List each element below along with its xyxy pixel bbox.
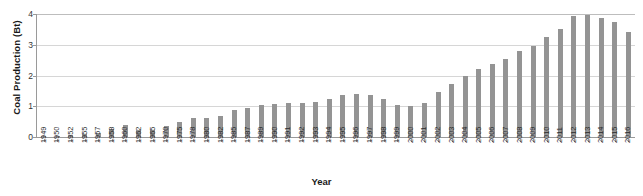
x-tick-slot: 1949 — [37, 139, 51, 175]
bar — [626, 32, 631, 137]
x-tick-slot: 2013 — [581, 139, 595, 175]
x-tick-slot: 1955 — [78, 139, 92, 175]
bar-slot — [486, 14, 500, 137]
x-tick-slot: 1957 — [91, 139, 105, 175]
x-tick-slot: 1978 — [187, 139, 201, 175]
x-tick-slot: 1995 — [336, 139, 350, 175]
bar-slot — [594, 14, 608, 137]
x-tick-label: 1989 — [256, 127, 265, 143]
x-tick-label: 2008 — [514, 127, 523, 143]
bar-slot — [268, 14, 282, 137]
x-tick-slot: 1960 — [119, 139, 133, 175]
bar-slot — [200, 14, 214, 137]
x-tick-slot: 2004 — [458, 139, 472, 175]
x-tick-label: 1962 — [134, 127, 143, 143]
y-tick-label: 3 — [21, 40, 33, 50]
x-tick-slot: 2000 — [404, 139, 418, 175]
x-tick-slot: 1999 — [390, 139, 404, 175]
x-tick-label: 1960 — [120, 127, 129, 143]
y-tick-label: 1 — [21, 101, 33, 111]
x-tick-slot: 1962 — [132, 139, 146, 175]
x-tick-slot: 2003 — [445, 139, 459, 175]
bar-slot — [513, 14, 527, 137]
bar-slot — [282, 14, 296, 137]
bar-slot — [363, 14, 377, 137]
x-tick-label: 1999 — [392, 127, 401, 143]
bar-slot — [431, 14, 445, 137]
x-tick-label: 2006 — [487, 127, 496, 143]
x-tick-slot: 1998 — [377, 139, 391, 175]
x-tick-slot: 1965 — [146, 139, 160, 175]
x-tick-slot: 2002 — [431, 139, 445, 175]
bar-slot — [241, 14, 255, 137]
x-tick-slot: 1993 — [309, 139, 323, 175]
bar-slot — [64, 14, 78, 137]
bar-slot — [105, 14, 119, 137]
x-tick-label: 1996 — [351, 127, 360, 143]
bar-slot — [499, 14, 513, 137]
x-tick-label: 1993 — [310, 127, 319, 143]
bar-slot — [540, 14, 554, 137]
y-axis-title: Coal Production (Bt) — [11, 8, 22, 128]
x-tick-label: 2011 — [555, 127, 564, 143]
x-tick-label: 1978 — [188, 127, 197, 143]
bar-slot — [78, 14, 92, 137]
bar-slot — [91, 14, 105, 137]
x-tick-label: 1975 — [175, 127, 184, 143]
bar — [503, 59, 508, 137]
bar — [517, 51, 522, 137]
bar-slot — [404, 14, 418, 137]
x-tick-label: 2001 — [419, 127, 428, 143]
bar — [585, 15, 590, 137]
bar-series — [37, 14, 635, 137]
x-tick-slot: 1991 — [282, 139, 296, 175]
bar-slot — [214, 14, 228, 137]
x-tick-label: 2000 — [406, 127, 415, 143]
x-tick-slot: 1990 — [268, 139, 282, 175]
bar-slot — [187, 14, 201, 137]
bar-slot — [336, 14, 350, 137]
x-tick-slot: 2005 — [472, 139, 486, 175]
x-tick-slot: 2007 — [499, 139, 513, 175]
x-tick-label: 1991 — [283, 127, 292, 143]
y-tick-label: 2 — [21, 71, 33, 81]
bar-slot — [309, 14, 323, 137]
coal-production-bar-chart: Coal Production (Bt) 01234 1949195019521… — [0, 0, 643, 196]
x-tick-label: 2012 — [569, 127, 578, 143]
x-tick-label: 2010 — [542, 127, 551, 143]
x-tick-slot: 1994 — [322, 139, 336, 175]
y-tick-label: 0 — [21, 132, 33, 142]
x-tick-slot: 1980 — [200, 139, 214, 175]
bar-slot — [526, 14, 540, 137]
x-tick-slot: 1992 — [295, 139, 309, 175]
x-tick-slot: 1982 — [214, 139, 228, 175]
x-tick-slot: 2001 — [418, 139, 432, 175]
bar-slot — [159, 14, 173, 137]
x-tick-label: 2009 — [528, 127, 537, 143]
bar-slot — [227, 14, 241, 137]
x-tick-label: 1990 — [270, 127, 279, 143]
bar-slot — [350, 14, 364, 137]
x-tick-label: 1949 — [39, 127, 48, 143]
x-tick-label: 1995 — [338, 127, 347, 143]
bar-slot — [390, 14, 404, 137]
x-tick-label: 1952 — [66, 127, 75, 143]
x-tick-label: 1970 — [161, 127, 170, 143]
x-tick-slot: 2011 — [554, 139, 568, 175]
x-tick-label: 1992 — [297, 127, 306, 143]
bar-slot — [173, 14, 187, 137]
bar-slot — [608, 14, 622, 137]
x-tick-slot: 2006 — [486, 139, 500, 175]
bar-slot — [445, 14, 459, 137]
bar-slot — [37, 14, 51, 137]
x-tick-label: 1958 — [107, 127, 116, 143]
x-tick-label: 2003 — [446, 127, 455, 143]
bar-slot — [554, 14, 568, 137]
x-tick-slot: 2014 — [594, 139, 608, 175]
x-tick-slot: 1989 — [255, 139, 269, 175]
x-tick-label: 1980 — [202, 127, 211, 143]
bar-slot — [418, 14, 432, 137]
bar-slot — [567, 14, 581, 137]
x-tick-slot: 2012 — [567, 139, 581, 175]
y-tick-label: 4 — [21, 9, 33, 19]
